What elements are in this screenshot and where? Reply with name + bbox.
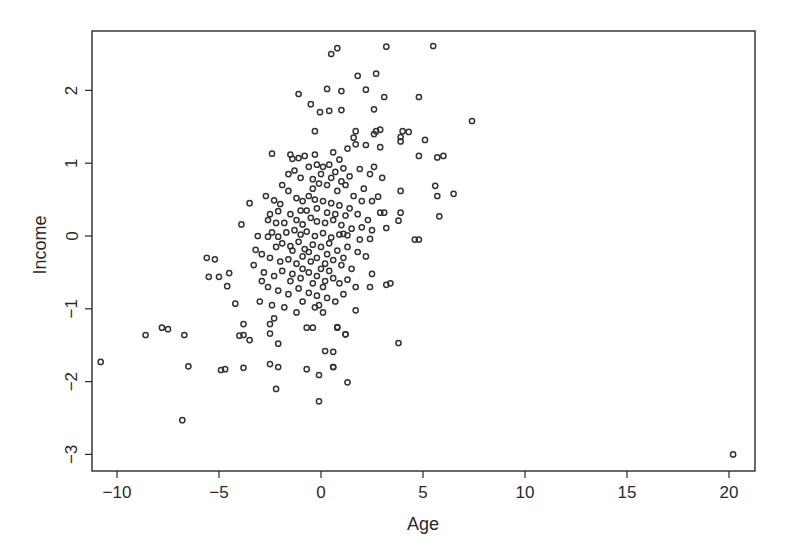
data-point xyxy=(306,270,311,275)
data-point xyxy=(331,150,336,155)
data-point xyxy=(276,364,281,369)
data-point xyxy=(333,212,338,217)
data-point xyxy=(435,193,440,198)
data-point xyxy=(325,182,330,187)
data-point xyxy=(339,179,344,184)
data-point xyxy=(304,229,309,234)
data-point xyxy=(298,208,303,213)
plot-frame xyxy=(92,31,755,471)
data-point xyxy=(306,164,311,169)
data-point xyxy=(253,247,258,252)
data-point xyxy=(286,172,291,177)
data-point xyxy=(317,110,322,115)
data-point xyxy=(312,129,317,134)
data-point xyxy=(333,169,338,174)
data-point xyxy=(367,236,372,241)
data-point xyxy=(274,220,279,225)
data-point xyxy=(435,155,440,160)
data-point xyxy=(398,188,403,193)
data-point xyxy=(282,305,287,310)
data-point xyxy=(308,259,313,264)
data-point xyxy=(347,206,352,211)
data-point xyxy=(327,108,332,113)
data-point xyxy=(294,217,299,222)
data-point xyxy=(265,284,270,289)
data-point xyxy=(272,316,277,321)
data-point xyxy=(300,266,305,271)
y-axis-title: Income xyxy=(30,215,50,274)
data-point xyxy=(292,228,297,233)
data-point xyxy=(310,325,315,330)
data-point xyxy=(329,51,334,56)
data-point xyxy=(359,225,364,230)
data-point xyxy=(323,279,328,284)
data-point xyxy=(325,210,330,215)
data-point xyxy=(308,102,313,107)
data-point xyxy=(286,188,291,193)
data-point xyxy=(247,201,252,206)
data-point xyxy=(345,146,350,151)
data-point xyxy=(143,332,148,337)
data-point xyxy=(343,213,348,218)
data-point xyxy=(269,303,274,308)
data-point xyxy=(337,281,342,286)
y-axis: −3−2−1012 xyxy=(63,86,93,464)
y-tick-label: −3 xyxy=(63,445,82,464)
data-point xyxy=(310,281,315,286)
data-point xyxy=(396,218,401,223)
data-point xyxy=(274,244,279,249)
data-point xyxy=(251,263,256,268)
data-point xyxy=(276,341,281,346)
data-point xyxy=(337,203,342,208)
data-point xyxy=(314,293,319,298)
data-point xyxy=(296,91,301,96)
data-point xyxy=(323,261,328,266)
data-point xyxy=(312,152,317,157)
data-point xyxy=(314,162,319,167)
data-point xyxy=(345,277,350,282)
data-point xyxy=(382,94,387,99)
data-point xyxy=(335,46,340,51)
data-point xyxy=(312,197,317,202)
data-point xyxy=(276,288,281,293)
data-point xyxy=(331,349,336,354)
data-point xyxy=(261,270,266,275)
x-tick-label: −5 xyxy=(209,483,228,502)
data-point xyxy=(98,359,103,364)
data-point xyxy=(396,340,401,345)
data-point xyxy=(298,175,303,180)
data-point xyxy=(331,257,336,262)
data-point xyxy=(376,194,381,199)
x-tick-label: 10 xyxy=(516,483,535,502)
data-point xyxy=(320,164,325,169)
data-point xyxy=(349,266,354,271)
data-point xyxy=(286,292,291,297)
data-point xyxy=(374,71,379,76)
data-point xyxy=(259,252,264,257)
data-point xyxy=(310,186,315,191)
data-point xyxy=(437,214,442,219)
data-point xyxy=(227,271,232,276)
data-point xyxy=(159,325,164,330)
data-point xyxy=(327,162,332,167)
data-point xyxy=(345,380,350,385)
data-point xyxy=(345,244,350,249)
data-point xyxy=(304,367,309,372)
data-point xyxy=(300,254,305,259)
data-point xyxy=(416,94,421,99)
data-point xyxy=(272,273,277,278)
data-point xyxy=(296,239,301,244)
data-point xyxy=(300,199,305,204)
data-point xyxy=(357,166,362,171)
data-point xyxy=(300,299,305,304)
data-point xyxy=(355,249,360,254)
data-point xyxy=(314,273,319,278)
data-point xyxy=(288,212,293,217)
data-point xyxy=(241,322,246,327)
data-point xyxy=(329,201,334,206)
data-point xyxy=(286,257,291,262)
data-point xyxy=(378,145,383,150)
data-point xyxy=(267,212,272,217)
data-point xyxy=(384,44,389,49)
x-axis: −10−505101520 xyxy=(103,471,739,502)
